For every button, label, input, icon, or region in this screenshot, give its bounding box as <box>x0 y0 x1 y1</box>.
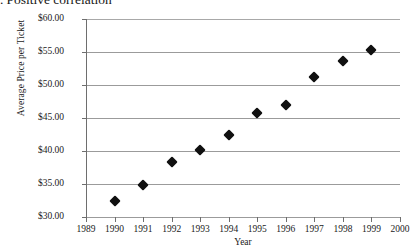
y-tick-label: $60.00 <box>12 13 64 23</box>
x-tick-mark <box>343 217 344 222</box>
y-tick-label: $35.00 <box>12 178 64 188</box>
x-tick-mark <box>86 217 87 222</box>
y-tick-mark <box>82 151 87 152</box>
gridline <box>86 217 400 218</box>
data-point <box>366 44 377 55</box>
y-tick-label: $40.00 <box>12 145 64 155</box>
y-tick-mark <box>82 85 87 86</box>
x-tick-mark <box>371 217 372 222</box>
x-tick-mark <box>257 217 258 222</box>
figure-caption: .Positive correlation <box>0 0 300 9</box>
data-point <box>309 71 320 82</box>
y-tick-label: $45.00 <box>12 112 64 122</box>
gridline <box>86 151 400 152</box>
x-tick-mark <box>200 217 201 222</box>
scatter-plot-figure: .Positive correlation Average Price per … <box>0 0 417 252</box>
data-point <box>195 145 206 156</box>
data-point <box>280 100 291 111</box>
gridline <box>86 118 400 119</box>
plot-area: $30.00$35.00$40.00$45.00$50.00$55.00$60.… <box>86 19 400 217</box>
x-tick-mark <box>115 217 116 222</box>
data-point <box>109 195 120 206</box>
y-tick-mark <box>82 19 87 20</box>
y-tick-mark <box>82 184 87 185</box>
y-tick-label: $55.00 <box>12 46 64 56</box>
y-tick-mark <box>82 52 87 53</box>
caption-marker: . <box>0 0 3 7</box>
x-tick-label: 2000 <box>380 224 417 234</box>
x-tick-mark <box>314 217 315 222</box>
gridline <box>86 52 400 53</box>
gridline <box>86 85 400 86</box>
gridline <box>86 184 400 185</box>
data-point <box>223 129 234 140</box>
x-tick-mark <box>229 217 230 222</box>
y-tick-label: $50.00 <box>12 79 64 89</box>
data-point <box>337 55 348 66</box>
x-tick-mark <box>143 217 144 222</box>
y-tick-mark <box>82 118 87 119</box>
data-point <box>137 179 148 190</box>
y-tick-label: $30.00 <box>12 211 64 221</box>
x-tick-mark <box>400 217 401 222</box>
x-tick-mark <box>286 217 287 222</box>
x-tick-mark <box>172 217 173 222</box>
gridline <box>86 19 400 20</box>
data-point <box>166 156 177 167</box>
x-axis-title: Year <box>86 237 400 247</box>
